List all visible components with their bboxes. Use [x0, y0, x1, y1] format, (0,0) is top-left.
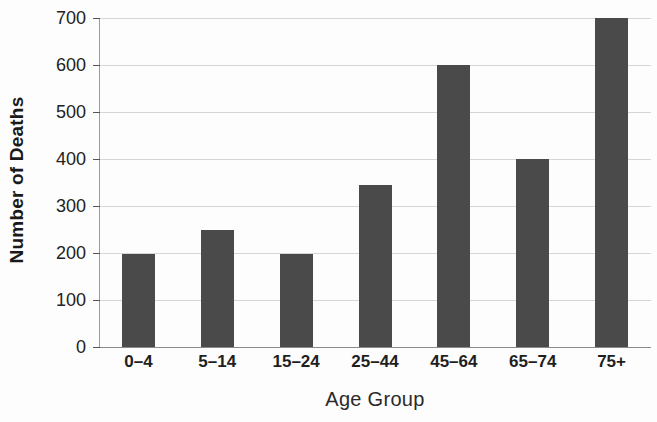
y-tick-mark	[93, 253, 100, 254]
bar	[280, 254, 313, 347]
x-tick-label: 65–74	[509, 352, 556, 372]
y-tick-label: 400	[56, 149, 86, 170]
gridline	[99, 347, 651, 348]
x-tick-label: 75+	[597, 352, 626, 372]
y-tick-label: 200	[56, 243, 86, 264]
y-tick-mark	[93, 18, 100, 19]
bar	[201, 230, 234, 348]
bars-group	[99, 18, 651, 347]
plot-area	[99, 18, 651, 347]
y-tick-label: 300	[56, 196, 86, 217]
x-tick-label: 0–4	[124, 352, 152, 372]
y-tick-mark	[93, 112, 100, 113]
bar	[122, 254, 155, 347]
x-tick-label: 5–14	[198, 352, 236, 372]
y-tick-mark	[93, 300, 100, 301]
y-tick-label: 500	[56, 102, 86, 123]
y-tick-label: 0	[76, 337, 86, 358]
x-tick-label: 45–64	[430, 352, 477, 372]
bar-chart: Number of Deaths 0100200300400500600700 …	[0, 0, 657, 422]
y-axis-title-text: Number of Deaths	[6, 97, 28, 264]
y-axis-tick-labels: 0100200300400500600700	[34, 0, 94, 422]
x-tick-label: 15–24	[273, 352, 320, 372]
y-tick-mark	[93, 159, 100, 160]
y-tick-label: 600	[56, 55, 86, 76]
y-axis-title: Number of Deaths	[0, 0, 34, 360]
bar	[595, 18, 628, 347]
bar	[437, 65, 470, 347]
y-tick-label: 100	[56, 290, 86, 311]
x-tick-label: 25–44	[351, 352, 398, 372]
y-tick-mark	[93, 206, 100, 207]
bar	[516, 159, 549, 347]
x-axis-title: Age Group	[99, 388, 651, 411]
y-tick-label: 700	[56, 8, 86, 29]
y-tick-mark	[93, 347, 100, 348]
x-axis-tick-labels: 0–45–1415–2425–4445–6465–7475+	[99, 352, 651, 380]
y-tick-mark	[93, 65, 100, 66]
bar	[359, 185, 392, 347]
